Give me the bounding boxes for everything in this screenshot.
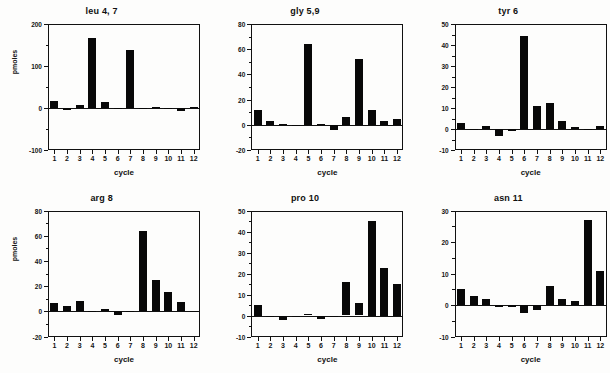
x-axis-tick-label: 6: [116, 155, 120, 162]
x-axis-tick: [296, 337, 297, 341]
chart-title: leu 4, 7: [0, 6, 203, 16]
x-axis-tick: [486, 337, 487, 341]
y-axis-tick-label: 40: [441, 42, 448, 49]
y-axis-tick: [247, 100, 251, 101]
x-axis-tick-label: 2: [65, 155, 69, 162]
x-axis-tick: [92, 337, 93, 341]
x-axis-tick: [67, 150, 68, 154]
x-axis-tick-label: 2: [472, 155, 476, 162]
y-axis-minor-tick: [452, 98, 455, 99]
x-axis-tick: [143, 150, 144, 154]
y-axis-tick: [247, 74, 251, 75]
x-axis-tick-label: 2: [268, 342, 272, 349]
y-axis-minor-tick: [452, 77, 455, 78]
y-axis-minor-tick: [249, 87, 252, 88]
y-axis-minor-tick: [452, 226, 455, 227]
y-axis-minor-tick: [452, 119, 455, 120]
y-axis-tick-label: 0: [242, 121, 246, 128]
x-axis-tick: [499, 337, 500, 341]
plot-frame: [455, 24, 607, 150]
bar: [342, 282, 350, 316]
x-axis-tick: [270, 150, 271, 154]
x-axis-tick-label: 4: [90, 342, 94, 349]
x-axis-tick: [588, 337, 589, 341]
x-axis-tick-label: 3: [78, 342, 82, 349]
x-axis-tick: [156, 337, 157, 341]
x-axis-tick-label: 6: [319, 342, 323, 349]
y-axis-tick-label: 30: [238, 249, 245, 256]
y-axis-minor-tick: [249, 137, 252, 138]
y-axis-minor-tick: [249, 221, 252, 222]
y-axis-tick-label: -10: [236, 333, 245, 340]
x-axis-tick-label: 7: [128, 155, 132, 162]
chart-title: tyr 6: [407, 6, 610, 16]
bar: [596, 126, 604, 129]
y-axis-tick: [44, 24, 48, 25]
plot-area: -20020406080123456789101112: [251, 24, 403, 150]
y-axis-tick: [247, 150, 251, 151]
bar: [368, 110, 376, 125]
x-axis-tick: [334, 337, 335, 341]
x-axis-label: cycle: [455, 168, 607, 177]
y-axis-minor-tick: [46, 248, 49, 249]
x-axis-tick-label: 7: [332, 342, 336, 349]
bar: [254, 110, 262, 125]
x-axis-tick: [600, 150, 601, 154]
y-axis-tick: [247, 253, 251, 254]
bar: [139, 231, 147, 312]
bar: [50, 303, 58, 311]
bar: [368, 221, 376, 316]
y-axis-tick: [451, 24, 455, 25]
bar: [266, 121, 274, 125]
x-axis-tick-label: 9: [154, 342, 158, 349]
y-axis-tick-label: 30: [441, 63, 448, 70]
x-axis-tick-label: 3: [484, 342, 488, 349]
x-axis-tick: [296, 150, 297, 154]
x-axis-label: cycle: [251, 168, 403, 177]
x-axis-tick: [562, 337, 563, 341]
x-axis-tick: [130, 150, 131, 154]
x-axis-tick-label: 8: [344, 342, 348, 349]
x-axis-tick-label: 3: [281, 155, 285, 162]
bar: [292, 125, 300, 126]
x-axis-tick-label: 5: [510, 342, 514, 349]
x-axis-tick-label: 1: [459, 155, 463, 162]
x-axis-tick-label: 5: [103, 155, 107, 162]
x-axis-tick-label: 8: [548, 342, 552, 349]
x-axis-tick-label: 7: [128, 342, 132, 349]
x-axis-tick-label: 9: [560, 342, 564, 349]
y-axis-minor-tick: [249, 326, 252, 327]
y-axis-tick: [451, 337, 455, 338]
bar: [304, 314, 312, 316]
bar: [520, 305, 528, 313]
bar: [508, 305, 516, 307]
x-axis-tick: [258, 150, 259, 154]
x-axis-tick: [359, 150, 360, 154]
bar: [126, 311, 134, 312]
plot-frame: [48, 24, 200, 150]
y-axis-tick-label: -100: [29, 147, 42, 154]
x-axis-tick-label: 9: [357, 342, 361, 349]
x-axis-tick: [550, 337, 551, 341]
bar: [380, 268, 388, 315]
y-axis-tick-label: 200: [31, 21, 42, 28]
y-axis-tick: [44, 236, 48, 237]
x-axis-tick: [54, 337, 55, 341]
x-axis-tick-label: 10: [571, 342, 579, 349]
y-axis-tick: [451, 45, 455, 46]
x-axis-tick: [168, 150, 169, 154]
y-axis-tick-label: 0: [445, 302, 449, 309]
y-axis-tick: [247, 49, 251, 50]
x-axis-tick: [321, 150, 322, 154]
x-axis-tick: [321, 337, 322, 341]
x-axis-tick: [575, 150, 576, 154]
x-axis-tick-label: 4: [294, 155, 298, 162]
y-axis-tick: [44, 261, 48, 262]
y-axis-minor-tick: [249, 242, 252, 243]
chart-title: pro 10: [203, 193, 406, 203]
bar: [470, 129, 478, 130]
x-axis-tick-label: 4: [294, 342, 298, 349]
bar: [50, 101, 58, 108]
bar: [571, 301, 579, 305]
bar: [190, 107, 198, 108]
